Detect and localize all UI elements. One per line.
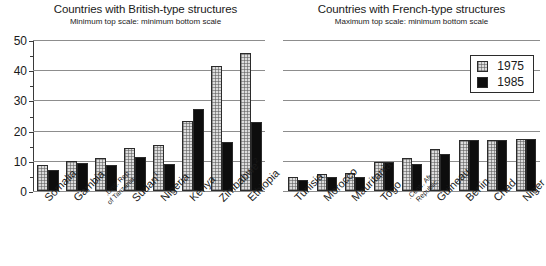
left-chart-subtitle: Minimum top scale: minimum bottom scale [18, 16, 273, 27]
bar-group [178, 41, 207, 191]
x-axis-label-slot: Somalia [34, 193, 63, 266]
x-axis-label-slot: Unit. Rep.of Tanzania [92, 193, 121, 266]
right-chart-title: Countries with French-type structures [277, 2, 546, 16]
y-axis-tick [29, 192, 33, 193]
x-axis-label-slot: Niger [512, 193, 540, 266]
left-x-axis-labels: SomaliaGambiaUnit. Rep.of TanzaniaSudan1… [34, 193, 265, 266]
left-chart-title: Countries with British-type structures [18, 2, 273, 16]
y-axis-tick-label: 50 [14, 34, 27, 48]
right-x-axis-labels: TunisiaMoroccoMauritaniaTogoCentr. Afr.R… [284, 193, 540, 266]
legend-swatch-1975 [477, 61, 488, 72]
right-chart-subtitle: Maximum top scale: minimum bottom scale [277, 16, 546, 27]
bar-group [312, 41, 340, 191]
y-axis-tick-label: 30 [14, 94, 27, 108]
x-axis-label-slot: Sudan1 [121, 193, 150, 266]
x-axis-label-slot: Togo [369, 193, 397, 266]
x-axis-label-slot: Morocco [312, 193, 340, 266]
x-axis-label-slot: Chad [483, 193, 511, 266]
y-axis-tick-label: 0 [20, 185, 27, 199]
legend-label: 1975 [497, 60, 524, 72]
bar-group [284, 41, 312, 191]
chart-legend: 19751985 [470, 55, 534, 93]
panel-french-type: Countries with French-type structures Ma… [273, 0, 546, 266]
x-axis-label-slot: Nigeria [150, 193, 179, 266]
x-axis-label-slot: Mauritania [341, 193, 369, 266]
bar-1975 [37, 165, 48, 191]
x-axis-label-slot: Ethiopia [236, 193, 265, 266]
y-axis-tick-label: 20 [14, 125, 27, 139]
bar-group [398, 41, 426, 191]
x-axis-label-slot: Benin [455, 193, 483, 266]
right-panel-titles: Countries with French-type structures Ma… [273, 2, 546, 27]
two-panel-bar-chart-figure: Countries with British-type structures M… [0, 0, 546, 266]
bar-group [426, 41, 454, 191]
y-axis-tick-label: 40 [14, 64, 27, 78]
legend-label: 1985 [497, 76, 524, 88]
x-axis-label-slot: Centr. Afr.Republic [398, 193, 426, 266]
left-panel-titles: Countries with British-type structures M… [0, 2, 273, 27]
bar-group [34, 41, 63, 191]
x-axis-label-slot: Gambia [63, 193, 92, 266]
x-axis-label-slot: Kenya [178, 193, 207, 266]
x-axis-label-slot: Tunisia [284, 193, 312, 266]
bar-1975 [211, 66, 222, 191]
bar-group [207, 41, 236, 191]
y-axis-tick-label: 10 [14, 155, 27, 169]
legend-swatch-1985 [477, 77, 488, 88]
x-axis-label-slot: Guineau [426, 193, 454, 266]
legend-item: 1985 [477, 76, 524, 88]
panel-british-type: Countries with British-type structures M… [0, 0, 273, 266]
legend-item: 1975 [477, 60, 524, 72]
x-axis-label-slot: Zimbabwe2 [207, 193, 236, 266]
